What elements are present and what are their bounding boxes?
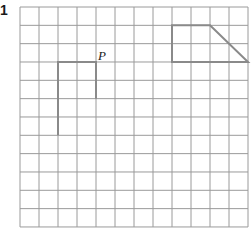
grid-diagram bbox=[0, 0, 251, 237]
point-p-label: P bbox=[98, 48, 106, 64]
